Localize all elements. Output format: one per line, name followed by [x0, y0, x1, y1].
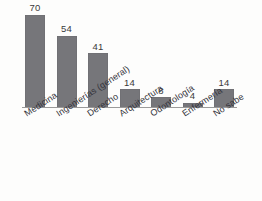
bar-value-label: 14 [124, 78, 135, 88]
bar-group: 14 [120, 2, 140, 109]
bar-chart: 70 54 41 14 8 4 14 Medicina [0, 0, 262, 201]
bar [25, 15, 45, 109]
bar-value-label: 70 [30, 3, 41, 13]
bar-group: 70 [25, 2, 45, 109]
x-axis-category-labels: Medicina Ingenierías (general) Derecho A… [0, 107, 262, 201]
bar-value-label: 14 [219, 78, 230, 88]
bar-value-label: 54 [61, 24, 72, 34]
bar-value-label: 41 [93, 42, 104, 52]
bar-group: 54 [57, 2, 77, 109]
